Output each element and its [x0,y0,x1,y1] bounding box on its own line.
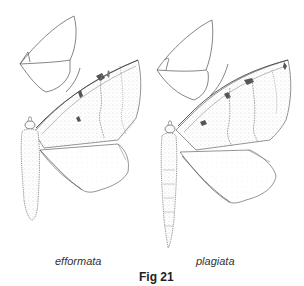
venation-diagram-plagiata [157,20,228,100]
body-plagiata [161,121,177,248]
species-label-plagiata: plagiata [196,255,235,267]
figure-caption: Fig 21 [139,270,174,284]
specimen-efformata [20,16,141,220]
venation-diagram-efformata [20,16,80,92]
hindwing-efformata [40,144,129,192]
specimen-plagiata [157,20,291,248]
forewing-plagiata [176,60,291,150]
body-efformata [21,117,39,220]
hindwing-plagiata [180,150,276,203]
moth-illustrations [0,0,304,286]
species-label-efformata: efformata [55,255,101,267]
figure-plate: efformata plagiata Fig 21 [0,0,304,286]
forewing-efformata [34,60,141,148]
